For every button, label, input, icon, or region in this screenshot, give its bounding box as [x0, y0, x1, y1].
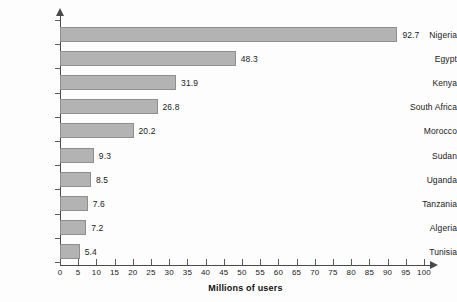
category-label: Kenya: [401, 78, 457, 88]
bar: [60, 220, 86, 235]
x-axis-tick: [96, 259, 97, 265]
bar-value-label: 8.5: [96, 175, 108, 185]
x-axis-tick: [133, 259, 134, 265]
category-label: Tanzania: [401, 199, 457, 209]
bar-chart: 0510152025303540455055606570758085909510…: [0, 0, 457, 302]
category-label: Uganda: [401, 175, 457, 185]
y-axis-tick: [55, 238, 61, 239]
bar-value-label: 7.6: [93, 199, 105, 209]
x-axis-tick: [169, 259, 170, 265]
bar-value-label: 48.3: [241, 54, 258, 64]
x-axis-tick: [315, 259, 316, 265]
y-axis-tick: [55, 141, 61, 142]
x-axis-title: Millions of users: [0, 283, 457, 293]
category-label: Tunisia: [401, 247, 457, 257]
bar: [60, 99, 158, 114]
x-axis-tick: [151, 259, 152, 265]
bar-value-label: 26.8: [163, 102, 180, 112]
x-axis-tick: [78, 259, 79, 265]
y-axis-tick: [55, 93, 61, 94]
x-axis-tick: [406, 259, 407, 265]
bar: [60, 27, 397, 42]
category-label: Algeria: [401, 223, 457, 233]
x-axis-tick: [242, 259, 243, 265]
y-axis-tick: [55, 117, 61, 118]
x-axis-tick: [388, 259, 389, 265]
x-axis-tick-label: 100: [412, 268, 436, 277]
bar-value-label: 31.9: [181, 78, 198, 88]
y-axis-arrow-icon: [56, 8, 64, 16]
y-axis-tick: [55, 165, 61, 166]
x-axis-tick: [278, 259, 279, 265]
y-axis-tick: [55, 214, 61, 215]
y-axis-tick: [55, 68, 61, 69]
x-axis-tick: [333, 259, 334, 265]
bar-value-label: 5.4: [85, 247, 97, 257]
bar: [60, 244, 80, 259]
bar-value-label: 20.2: [139, 126, 156, 136]
category-label: South Africa: [401, 102, 457, 112]
x-axis-tick: [115, 259, 116, 265]
x-axis-tick: [351, 259, 352, 265]
x-axis-tick: [369, 259, 370, 265]
x-axis-title-text: Millions of users: [174, 283, 282, 293]
y-axis-tick: [55, 262, 61, 263]
category-label: Sudan: [401, 151, 457, 161]
bar: [60, 172, 91, 187]
y-axis-tick: [55, 44, 61, 45]
y-axis-tick: [55, 189, 61, 190]
x-axis-tick: [297, 259, 298, 265]
bar-value-label: 9.3: [99, 151, 111, 161]
bar: [60, 148, 94, 163]
x-axis-tick: [260, 259, 261, 265]
x-axis-tick: [187, 259, 188, 265]
bar: [60, 75, 176, 90]
x-axis-tick: [424, 259, 425, 265]
x-axis-tick: [224, 259, 225, 265]
x-axis-line: [60, 265, 432, 266]
x-axis-tick: [206, 259, 207, 265]
bar-value-label: 7.2: [91, 223, 103, 233]
bar: [60, 51, 236, 66]
bar: [60, 123, 134, 138]
bar-value-label: 92.7: [402, 30, 419, 40]
category-label: Egypt: [401, 54, 457, 64]
category-label: Morocco: [401, 126, 457, 136]
bar: [60, 196, 88, 211]
y-axis-tick: [55, 20, 61, 21]
